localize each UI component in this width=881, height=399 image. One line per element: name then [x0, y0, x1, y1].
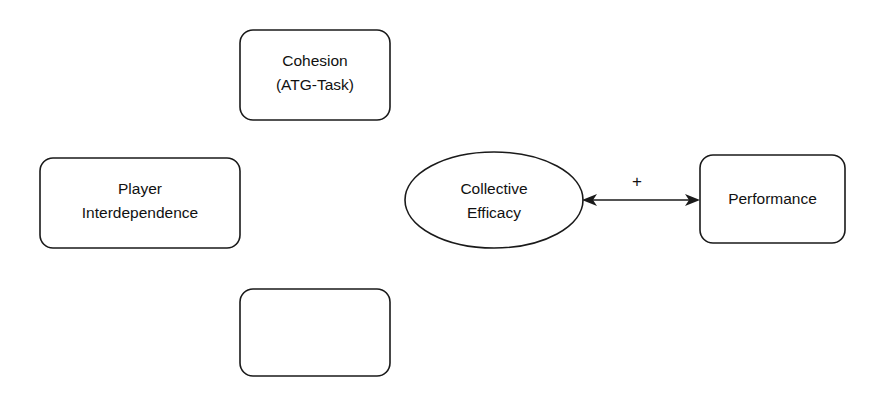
diagram-canvas: Cohesion (ATG-Task) Player Interdependen… — [0, 0, 881, 399]
node-performance[interactable]: Performance — [700, 155, 845, 243]
node-player-interdependence-label-line1: Player — [118, 180, 162, 197]
conceptual-model-diagram: Cohesion (ATG-Task) Player Interdependen… — [0, 0, 881, 399]
node-cohesion-shape[interactable] — [240, 30, 390, 120]
node-player-interdependence[interactable]: Player Interdependence — [40, 158, 240, 248]
node-collective-efficacy-label-line1: Collective — [460, 180, 527, 197]
node-blank[interactable] — [240, 289, 390, 376]
node-collective-efficacy-shape[interactable] — [405, 152, 583, 248]
node-blank-shape[interactable] — [240, 289, 390, 376]
node-performance-label: Performance — [728, 190, 817, 207]
node-player-interdependence-shape[interactable] — [40, 158, 240, 248]
node-cohesion-label-line1: Cohesion — [282, 52, 348, 69]
node-collective-efficacy-label-line2: Efficacy — [467, 204, 521, 221]
node-cohesion-label-line2: (ATG-Task) — [276, 76, 354, 93]
node-collective-efficacy[interactable]: Collective Efficacy — [405, 152, 583, 248]
node-cohesion[interactable]: Cohesion (ATG-Task) — [240, 30, 390, 120]
link-sign-positive: + — [632, 172, 642, 191]
node-player-interdependence-label-line2: Interdependence — [82, 204, 198, 221]
link-efficacy-performance[interactable]: + — [582, 172, 700, 206]
